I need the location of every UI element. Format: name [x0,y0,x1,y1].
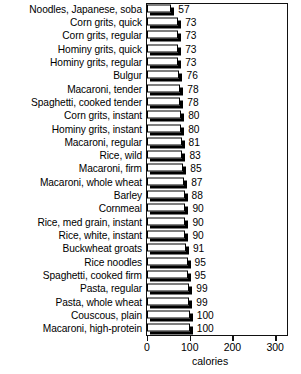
bar-value-label: 95 [195,271,206,281]
bar-row: Cornmeal90 [0,203,301,216]
category-label: Rice noodles [84,258,142,268]
bar-value-label: 73 [185,18,196,28]
bar-row: Hominy grits, quick73 [0,43,301,56]
category-label: Hominy grits, regular [50,58,142,68]
bar [147,191,188,202]
bar-row: Noodles, Japanese, soba57 [0,3,301,16]
bar-face [147,151,182,159]
bar [147,17,181,28]
category-label: Pasta, whole wheat [55,298,142,308]
category-label: Corn grits, quick [70,18,142,28]
category-label: Pasta, regular [80,284,142,294]
category-label: Couscous, plain [71,311,142,321]
bar [147,217,188,228]
bar [147,257,191,268]
category-label: Corn grits, regular [62,31,142,41]
bar-face [147,324,190,332]
bar [147,271,191,282]
bar-row: Corn grits, regular73 [0,30,301,43]
bar-value-label: 95 [195,258,206,268]
bar-row: Macaroni, high-protein100 [0,323,301,336]
category-label: Macaroni, high-protein [43,324,142,334]
bar-face [147,297,189,305]
bar [147,124,184,135]
bar [147,71,182,82]
bar-value-label: 80 [188,124,199,134]
category-label: Macaroni, tender [67,84,142,94]
bar-value-label: 73 [185,45,196,55]
bar-face [147,71,179,79]
bar-row: Couscous, plain100 [0,309,301,322]
bar-value-label: 85 [190,164,201,174]
bar-value-label: 99 [196,284,207,294]
bar-value-label: 81 [189,138,200,148]
bar-face [147,31,178,39]
bar-face [147,284,189,292]
bar-face [147,257,188,265]
category-label: Rice, white, instant [59,231,143,241]
category-label: Rice, wild [99,151,142,161]
bar [147,31,181,42]
bar-face [147,244,186,252]
bar-value-label: 80 [188,111,199,121]
bar-row: Macaroni, regular81 [0,136,301,149]
category-label: Spaghetti, cooked firm [43,271,142,281]
bar-value-label: 99 [196,298,207,308]
category-label: Hominy grits, instant [52,124,142,134]
x-axis-title: calories [192,356,228,367]
category-label: Barley [114,191,142,201]
bar [147,204,188,215]
bar-row: Pasta, regular99 [0,283,301,296]
bar-value-label: 83 [189,151,200,161]
bar [147,84,183,95]
bar [147,164,186,175]
bar-row: Buckwheat groats91 [0,243,301,256]
bar-face [147,204,185,212]
category-label: Macaroni, regular [64,138,142,148]
category-label: Macaroni, whole wheat [40,178,142,188]
bar-row: Rice, wild83 [0,150,301,163]
bar [147,244,189,255]
bar-face [147,44,178,52]
bar-face [147,231,185,239]
category-label: Cornmeal [99,204,142,214]
bar-row: Macaroni, whole wheat87 [0,176,301,189]
bar-value-label: 100 [197,311,214,321]
bar-face [147,191,185,199]
bar [147,111,184,122]
bar-row: Spaghetti, cooked firm95 [0,269,301,282]
bar-value-label: 87 [191,178,202,188]
bar-value-label: 57 [178,5,189,15]
bar-face [147,271,188,279]
bar-face [147,84,180,92]
bar-row: Rice, med grain, instant90 [0,216,301,229]
calories-bar-chart: Noodles, Japanese, soba57Corn grits, qui… [0,0,301,374]
bar [147,44,181,55]
bar-row: Pasta, whole wheat99 [0,296,301,309]
x-tick-label: 300 [266,342,284,353]
bar [147,324,193,335]
bar [147,177,187,188]
bar [147,311,193,322]
bar-face [147,111,181,119]
category-label: Hominy grits, quick [58,45,142,55]
bar-row: Rice, white, instant90 [0,229,301,242]
bar-row: Hominy grits, instant80 [0,123,301,136]
bar-value-label: 88 [192,191,203,201]
bar-row: Barley88 [0,189,301,202]
category-label: Noodles, Japanese, soba [29,5,142,15]
bar-value-label: 100 [197,324,214,334]
bar-face [147,57,178,65]
bar-value-label: 73 [185,31,196,41]
bar-face [147,137,182,145]
bar-face [147,217,185,225]
bar [147,4,174,15]
bar-value-label: 90 [192,218,203,228]
bar-row: Spaghetti, cooked tender78 [0,96,301,109]
bar-row: Macaroni, tender78 [0,83,301,96]
bar [147,137,185,148]
bar [147,97,183,108]
category-label: Rice, med grain, instant [37,218,142,228]
bar-value-label: 73 [185,58,196,68]
bar-value-label: 78 [187,84,198,94]
